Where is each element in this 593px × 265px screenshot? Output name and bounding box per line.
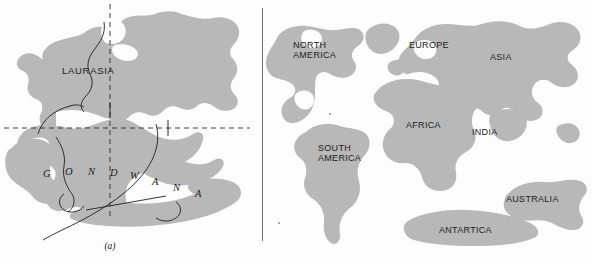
maritime-island-shape xyxy=(556,123,579,143)
label-africa: AFRICA xyxy=(406,120,441,130)
label-gondwana-letter-n: N xyxy=(88,166,95,178)
british-isles-shape xyxy=(387,60,405,76)
continental-drift-figure: LAURASIA G O N D W A N A (a) xyxy=(0,0,593,265)
label-gondwana-letter-a1: A xyxy=(152,176,158,188)
laurasia-landmass xyxy=(17,11,239,133)
label-europe: EUROPE xyxy=(409,40,449,50)
south-america-shape xyxy=(294,124,369,244)
africa-shape xyxy=(374,79,483,191)
label-gondwana-letter-d: D xyxy=(110,167,118,179)
label-gondwana-letter-o: O xyxy=(65,166,73,178)
label-gondwana-letter-g: G xyxy=(43,168,51,180)
caption-a: (a) xyxy=(80,241,140,251)
label-laurasia: LAURASIA xyxy=(62,66,115,77)
label-australia: AUSTRALIA xyxy=(506,194,559,204)
label-india: INDIA xyxy=(472,127,498,137)
scan-speck-1 xyxy=(329,113,331,115)
label-gondwana-letter-w: W xyxy=(130,170,139,182)
label-north-america: NORTH AMERICA xyxy=(293,40,336,61)
scan-speck-2 xyxy=(278,222,280,224)
greenland-shape xyxy=(365,24,399,54)
label-asia: ASIA xyxy=(490,52,512,62)
label-south-america: SOUTH AMERICA xyxy=(318,143,361,164)
panel-a-pangaea: LAURASIA G O N D W A N A (a) xyxy=(0,0,262,265)
pangaea-map-svg xyxy=(0,0,262,265)
label-gondwana-letter-n2: N xyxy=(173,182,180,194)
label-gondwana-letter-a2: A xyxy=(195,188,201,200)
label-antartica: ANTARTICA xyxy=(439,225,492,235)
panel-b-modern-continents: NORTH AMERICA EUROPE ASIA AFRICA INDIA S… xyxy=(262,0,593,265)
